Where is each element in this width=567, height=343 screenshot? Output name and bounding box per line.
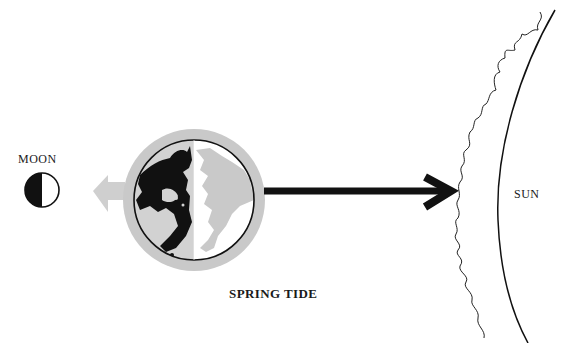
- moon-pull-arrow: [93, 175, 125, 212]
- diagram-title: SPRING TIDE: [229, 286, 317, 301]
- sun-corona: [455, 12, 541, 338]
- sun-label: SUN: [514, 187, 540, 201]
- sun-limb: [498, 10, 555, 343]
- sun-pull-arrow: [264, 177, 451, 207]
- moon-icon: [25, 173, 59, 207]
- moon-label: MOON: [18, 152, 57, 166]
- earth: [123, 129, 265, 272]
- spring-tide-diagram: MOON SU: [0, 0, 567, 343]
- sun: [455, 10, 555, 343]
